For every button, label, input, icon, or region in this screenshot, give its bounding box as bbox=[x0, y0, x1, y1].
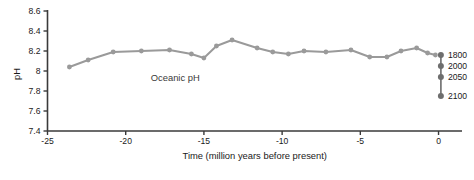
projection-point bbox=[438, 52, 444, 58]
y-tick-label: 8 bbox=[36, 66, 41, 76]
projection-label: 1800 bbox=[448, 50, 467, 60]
oceanic-ph-line-chart: 7.47.67.888.28.48.6 -25-20-15-10-50 pH T… bbox=[0, 0, 474, 180]
y-axis-ticks: 7.47.67.888.28.48.6 bbox=[29, 6, 48, 136]
data-point bbox=[139, 49, 144, 54]
x-tick-label: -10 bbox=[276, 136, 289, 146]
data-point bbox=[202, 56, 207, 61]
data-point bbox=[230, 38, 235, 43]
x-tick-label: -5 bbox=[357, 136, 365, 146]
y-axis-label: pH bbox=[11, 68, 22, 80]
projection-point bbox=[438, 63, 444, 69]
projection-label: 2050 bbox=[448, 72, 467, 82]
x-tick-label: -25 bbox=[41, 136, 54, 146]
data-point bbox=[433, 53, 438, 58]
data-point bbox=[349, 48, 354, 53]
projection-year-labels: 1800200020502100 bbox=[448, 50, 467, 101]
x-tick-label: 0 bbox=[436, 136, 441, 146]
projection-label: 2100 bbox=[448, 91, 467, 101]
data-point bbox=[86, 58, 91, 63]
x-tick-label: -15 bbox=[198, 136, 211, 146]
oceanic-ph-series-line bbox=[69, 40, 435, 67]
data-point bbox=[111, 50, 116, 55]
y-tick-label: 8.6 bbox=[29, 6, 41, 16]
y-tick-label: 8.4 bbox=[29, 26, 41, 36]
x-axis-label: Time (million years before present) bbox=[183, 150, 328, 161]
data-point bbox=[324, 50, 329, 55]
data-point bbox=[286, 52, 291, 57]
data-point bbox=[302, 49, 307, 54]
projection-point bbox=[438, 74, 444, 80]
data-point bbox=[255, 46, 260, 51]
data-point bbox=[399, 49, 404, 54]
projection-label: 2000 bbox=[448, 61, 467, 71]
chart-figure: 7.47.67.888.28.48.6 -25-20-15-10-50 pH T… bbox=[0, 0, 474, 180]
data-point bbox=[214, 44, 219, 49]
x-axis-ticks: -25-20-15-10-50 bbox=[41, 131, 441, 146]
data-point bbox=[414, 46, 419, 51]
y-tick-label: 7.8 bbox=[29, 86, 41, 96]
data-point bbox=[67, 65, 72, 70]
data-point bbox=[385, 55, 390, 60]
data-point bbox=[167, 48, 172, 53]
data-point bbox=[367, 55, 372, 60]
oceanic-ph-data-points bbox=[67, 38, 438, 70]
data-point bbox=[270, 50, 275, 55]
data-point bbox=[189, 52, 194, 57]
oceanic-ph-annotation: Oceanic pH bbox=[151, 72, 200, 83]
projection-point bbox=[438, 93, 444, 99]
y-tick-label: 7.6 bbox=[29, 106, 41, 116]
x-tick-label: -20 bbox=[119, 136, 132, 146]
y-tick-label: 8.2 bbox=[29, 46, 41, 56]
y-tick-label: 7.4 bbox=[29, 126, 41, 136]
data-point bbox=[425, 51, 430, 56]
